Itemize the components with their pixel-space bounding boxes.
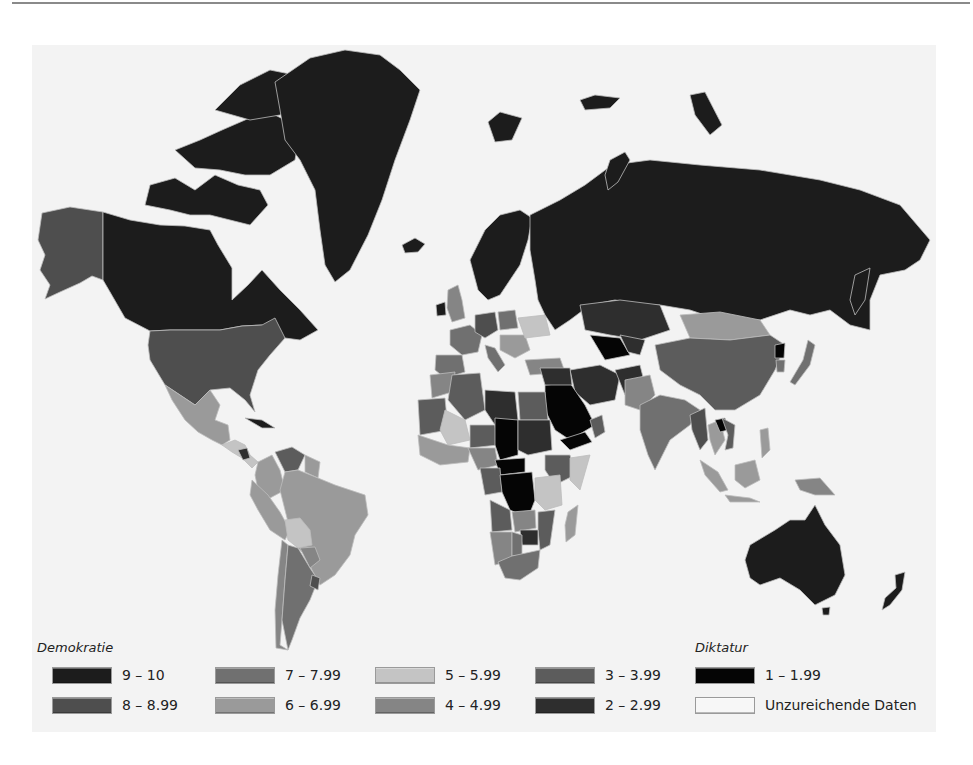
region-iraq-syria [540, 368, 572, 385]
region-cuba [245, 418, 275, 428]
region-canada-islands [145, 175, 268, 225]
region-japan [790, 340, 815, 385]
region-oman [590, 415, 605, 438]
region-egypt [518, 392, 548, 420]
region-chad [495, 418, 518, 460]
legend-swatch [695, 697, 755, 714]
region-nicaragua [238, 448, 250, 460]
region-uk [447, 285, 465, 322]
region-cameroon-gabon [480, 468, 502, 495]
legend-item-4-499: 4 – 4.99 [375, 696, 501, 714]
top-rule [12, 2, 970, 4]
map-panel: Demokratie Diktatur 9 – 10 8 – 8.99 7 – … [32, 45, 936, 732]
region-sudan [518, 420, 552, 455]
legend-swatch [535, 667, 595, 684]
region-alaska [38, 207, 103, 299]
region-canada [103, 212, 318, 340]
region-myanmar [690, 408, 708, 450]
region-south-korea [776, 360, 785, 372]
legend-label: 3 – 3.99 [605, 667, 661, 683]
region-kazakhstan [580, 300, 670, 340]
region-usa [148, 318, 285, 412]
legend-swatch [52, 697, 112, 714]
region-poland [498, 310, 518, 330]
region-algeria [448, 373, 485, 420]
legend-swatch [52, 667, 112, 684]
region-zimbabwe [520, 530, 538, 545]
region-new-zealand [882, 572, 905, 610]
legend-swatch [375, 697, 435, 714]
region-zambia [512, 510, 536, 532]
legend-swatch [215, 667, 275, 684]
legend-swatch [215, 697, 275, 714]
legend-label: 8 – 8.99 [122, 697, 178, 713]
region-kenya-tanzania [535, 475, 562, 510]
legend-label: 2 – 2.99 [605, 697, 661, 713]
legend-item-3-399: 3 – 3.99 [535, 666, 661, 684]
region-new-guinea [795, 478, 835, 495]
legend-label: 6 – 6.99 [285, 697, 341, 713]
region-botswana [512, 532, 522, 556]
region-borneo [735, 460, 760, 488]
world-map [32, 45, 936, 732]
legend-label: 7 – 7.99 [285, 667, 341, 683]
region-iceland [402, 238, 425, 253]
legend-item-no-data: Unzureichende Daten [695, 696, 917, 714]
region-somalia [570, 455, 590, 490]
region-mozambique [538, 510, 555, 550]
legend-heading-democracy: Demokratie [37, 640, 113, 655]
region-tasmania [822, 607, 830, 615]
region-java [725, 495, 760, 502]
legend-label: 5 – 5.99 [445, 667, 501, 683]
region-madagascar [565, 505, 578, 542]
legend-item-8-899: 8 – 8.99 [52, 696, 178, 714]
region-niger [470, 425, 498, 448]
legend-label: Unzureichende Daten [765, 697, 917, 713]
region-franz-josef [580, 95, 620, 110]
region-greenland [275, 50, 420, 282]
legend-label: 4 – 4.99 [445, 697, 501, 713]
legend-item-1-199: 1 – 1.99 [695, 666, 821, 684]
legend-item-5-599: 5 – 5.99 [375, 666, 501, 684]
legend-swatch [535, 697, 595, 714]
region-australia [745, 505, 845, 605]
legend-item-7-799: 7 – 7.99 [215, 666, 341, 684]
region-severnaya [690, 92, 722, 135]
legend-swatch [695, 667, 755, 684]
region-germany [475, 312, 498, 338]
legend-item-2-299: 2 – 2.99 [535, 696, 661, 714]
region-north-korea [775, 343, 785, 358]
legend-swatch [375, 667, 435, 684]
region-vietnam [722, 418, 735, 450]
region-balkans [500, 335, 530, 358]
region-nigeria [468, 448, 498, 470]
legend-label: 9 – 10 [122, 667, 165, 683]
legend-item-6-699: 6 – 6.99 [215, 696, 341, 714]
region-scandinavia [470, 210, 532, 300]
region-philippines [760, 428, 770, 458]
legend-item-9-10: 9 – 10 [52, 666, 165, 684]
region-ireland [436, 302, 446, 316]
region-ukraine [518, 315, 550, 338]
region-sumatra [700, 460, 728, 492]
legend-heading-dictatorship: Diktatur [695, 640, 748, 655]
legend-label: 1 – 1.99 [765, 667, 821, 683]
region-india [640, 395, 700, 470]
region-svalbard [488, 112, 522, 142]
